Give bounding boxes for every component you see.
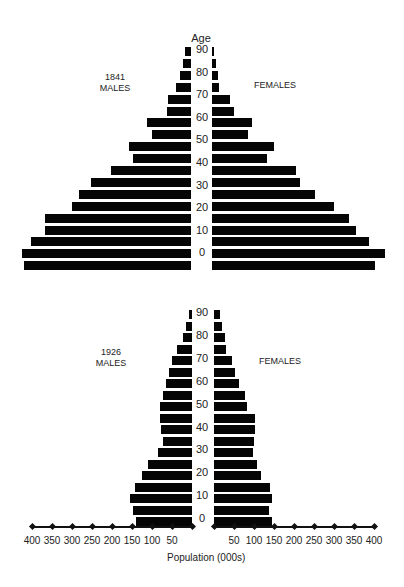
female-bar bbox=[212, 83, 219, 92]
age-tick-label: 80 bbox=[192, 330, 212, 341]
age-tick-label: 60 bbox=[192, 112, 212, 123]
female-bar bbox=[212, 142, 274, 151]
female-bar bbox=[214, 333, 225, 342]
pyramid-1926-year: 1926 bbox=[86, 347, 136, 357]
axis-tick-marker bbox=[28, 523, 35, 530]
female-bar bbox=[214, 437, 254, 446]
male-bar bbox=[22, 249, 191, 258]
female-bar bbox=[212, 107, 234, 116]
female-bar bbox=[214, 402, 247, 411]
male-bar bbox=[163, 391, 192, 400]
female-bar bbox=[212, 178, 300, 187]
female-bar bbox=[214, 425, 255, 434]
axis-tick-marker bbox=[250, 523, 257, 530]
axis-tick-marker bbox=[48, 523, 55, 530]
male-bar bbox=[129, 142, 191, 151]
age-tick-label: 0 bbox=[192, 513, 212, 524]
female-bar bbox=[212, 190, 315, 199]
x-axis-title: Population (000s) bbox=[167, 552, 245, 563]
female-bar bbox=[214, 379, 239, 388]
male-bar bbox=[91, 178, 191, 187]
axis-tick-marker bbox=[108, 523, 115, 530]
male-bar bbox=[133, 154, 191, 163]
male-bar bbox=[142, 471, 192, 480]
axis-tick-marker bbox=[68, 523, 75, 530]
age-tick-label: 30 bbox=[192, 180, 212, 191]
female-bar bbox=[214, 448, 253, 457]
age-tick-label: 90 bbox=[192, 44, 212, 55]
axis-tick-marker bbox=[350, 523, 357, 530]
age-tick-label: 60 bbox=[192, 376, 212, 387]
axis-tick-marker bbox=[370, 523, 377, 530]
male-bar bbox=[158, 448, 192, 457]
axis-tick-marker bbox=[148, 523, 155, 530]
male-bar bbox=[45, 214, 191, 223]
female-bar bbox=[214, 460, 257, 469]
axis-tick-marker bbox=[330, 523, 337, 530]
age-tick-label: 70 bbox=[192, 89, 212, 100]
male-bar bbox=[31, 237, 191, 246]
male-bar bbox=[133, 506, 192, 515]
male-bar bbox=[45, 226, 191, 235]
axis-tick-marker bbox=[168, 523, 175, 530]
male-bar bbox=[168, 95, 191, 104]
female-bar bbox=[214, 414, 255, 423]
male-bar bbox=[72, 202, 191, 211]
pyramid-1841-year: 1841 bbox=[90, 72, 140, 82]
male-bar bbox=[135, 483, 192, 492]
axis-tick-marker bbox=[290, 523, 297, 530]
age-tick-label: 20 bbox=[192, 467, 212, 478]
female-bar bbox=[214, 471, 261, 480]
axis-tick-marker bbox=[88, 523, 95, 530]
female-bar bbox=[212, 214, 349, 223]
age-tick-label: 50 bbox=[192, 399, 212, 410]
axis-tick-marker bbox=[128, 523, 135, 530]
male-bar bbox=[166, 379, 192, 388]
axis-tick-label: 50 bbox=[157, 535, 187, 546]
age-tick-label: 30 bbox=[192, 444, 212, 455]
female-bar bbox=[212, 261, 375, 270]
male-bar bbox=[152, 130, 191, 139]
female-bar bbox=[214, 506, 269, 515]
male-bar bbox=[148, 460, 192, 469]
male-bar bbox=[177, 345, 192, 354]
female-bar bbox=[212, 47, 214, 56]
female-bar bbox=[214, 494, 272, 503]
female-bar bbox=[214, 310, 220, 319]
female-bar bbox=[214, 391, 245, 400]
female-bar bbox=[214, 356, 232, 365]
male-bar bbox=[167, 107, 191, 116]
age-tick-label: 40 bbox=[192, 422, 212, 433]
female-bar bbox=[212, 166, 296, 175]
female-bar bbox=[212, 130, 248, 139]
male-bar bbox=[163, 437, 192, 446]
female-bar bbox=[214, 345, 226, 354]
female-bar bbox=[212, 226, 356, 235]
age-tick-label: 90 bbox=[192, 307, 212, 318]
female-bar bbox=[212, 118, 252, 127]
axis-tick-label: 400 bbox=[359, 535, 389, 546]
male-bar bbox=[183, 59, 191, 68]
age-tick-label: 20 bbox=[192, 202, 212, 213]
male-bar bbox=[24, 261, 191, 270]
pyramid-1926-males-label: MALES bbox=[86, 358, 136, 368]
male-bar bbox=[183, 333, 192, 342]
female-bar bbox=[212, 95, 230, 104]
axis-tick-marker bbox=[310, 523, 317, 530]
male-bar bbox=[130, 494, 192, 503]
male-bar bbox=[180, 71, 191, 80]
age-tick-label: 50 bbox=[192, 134, 212, 145]
age-tick-label: 10 bbox=[192, 225, 212, 236]
female-bar bbox=[212, 249, 385, 258]
pyramid-1841-males-label: MALES bbox=[90, 83, 140, 93]
male-bar bbox=[111, 166, 191, 175]
female-bar bbox=[212, 202, 334, 211]
male-bar bbox=[172, 356, 192, 365]
age-tick-label: 40 bbox=[192, 157, 212, 168]
female-bar bbox=[212, 237, 369, 246]
age-tick-label: 80 bbox=[192, 67, 212, 78]
male-bar bbox=[176, 83, 191, 92]
pyramid-1926-females-label: FEMALES bbox=[245, 356, 315, 366]
female-bar bbox=[214, 322, 222, 331]
age-tick-label: 0 bbox=[192, 247, 212, 258]
